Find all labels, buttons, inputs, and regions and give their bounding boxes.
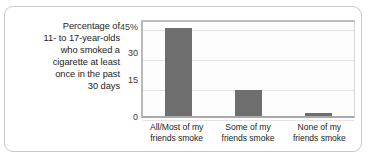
bar[interactable] [305,113,332,116]
bar[interactable] [165,28,192,116]
bar-slot [143,22,213,116]
y-tick-label-30: 30 [104,48,138,58]
x-axis-label: All/Most of my friends smoke [141,122,212,143]
x-axis-label: None of my friends smoke [284,122,355,143]
bar[interactable] [235,90,262,116]
x-axis-labels: All/Most of my friends smokeSome of my f… [141,122,355,143]
bar-slot [213,22,283,116]
y-tick-label-15: 15 [104,75,138,85]
bar-slot [284,22,354,116]
plot-area [141,20,355,118]
x-axis-label: Some of my friends smoke [212,122,283,143]
gridline [143,120,354,121]
y-tick-label-0: 0 [104,112,138,122]
y-tick-label-45: 45% [104,22,138,32]
chart-figure: Percentage of 11- to 17-year-olds who sm… [0,0,368,160]
bar-series [143,22,354,116]
